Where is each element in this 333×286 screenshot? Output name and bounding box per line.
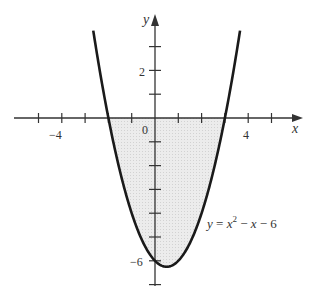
origin-label: 0 <box>142 123 148 137</box>
y-tick-label-2: 2 <box>139 65 145 79</box>
y-tick-label-neg6: −6 <box>130 255 143 269</box>
x-tick-label-neg4: −4 <box>49 128 62 142</box>
equation-label: y = x2 − x − 6 <box>205 214 277 231</box>
parabola-chart: y x 0 −4 4 2 −6 y = x2 − x − 6 <box>0 0 333 286</box>
x-axis-label: x <box>291 121 299 136</box>
y-axis-arrow-icon <box>151 14 159 26</box>
y-axis-label: y <box>141 12 150 27</box>
x-tick-label-4: 4 <box>243 128 249 142</box>
